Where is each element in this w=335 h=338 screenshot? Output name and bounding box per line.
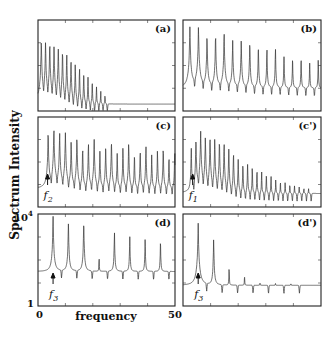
panel-label: (a) — [155, 23, 171, 34]
spectrum-trace — [183, 223, 321, 293]
spectrum-trace — [183, 131, 321, 201]
panel-c-prime: (c')f1 — [183, 117, 321, 207]
frequency-annotation: f2 — [43, 189, 53, 204]
spectrum-trace — [183, 27, 321, 96]
panel-d: (d)f3 — [38, 214, 175, 306]
panel-label: (c) — [155, 120, 171, 131]
frequency-annotation: f3 — [48, 288, 58, 303]
x-tick-left: 0 — [36, 309, 43, 320]
panel-a: (a) — [38, 20, 175, 111]
spectrum-trace — [38, 43, 175, 111]
panel-d-prime: (d')f3 — [183, 214, 321, 306]
spectrum-figure: Spectrum Intensity (a) (b) (c)f2 (c')f1 … — [0, 0, 335, 338]
panel-label: (b) — [301, 23, 317, 34]
spectrum-trace — [38, 131, 175, 194]
x-axis-label: frequency — [75, 310, 137, 323]
y-tick-bottom: 1 — [27, 298, 34, 309]
panel-label: (d') — [297, 217, 317, 228]
frequency-annotation: f1 — [188, 189, 198, 204]
panel-b: (b) — [183, 20, 321, 111]
panel-c: (c)f2 — [38, 117, 175, 207]
panel-label: (c') — [298, 120, 317, 131]
frequency-annotation: f3 — [193, 288, 203, 303]
x-tick-right: 50 — [168, 309, 182, 320]
y-tick-top: 104 — [14, 209, 33, 223]
panel-label: (d) — [155, 217, 171, 228]
